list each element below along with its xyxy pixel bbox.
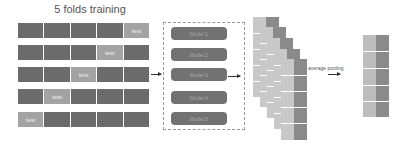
train-cell [124,112,149,127]
fold-row-3: test [18,67,149,82]
final-prediction [363,35,389,117]
arrow-to-final [328,74,340,75]
train-cell [71,89,96,104]
fold-row-4: test [18,89,149,104]
arrow-to-predictions [228,76,240,77]
train-cell [18,23,43,38]
pooling-label: average pooling [308,65,344,71]
train-cell [18,67,43,82]
model-box-2: Model 2 [171,48,227,61]
train-cell [18,45,43,60]
train-cell [44,67,69,82]
arrow-to-models [151,74,161,75]
train-cell [124,67,149,82]
train-cell [97,23,122,38]
train-cell [44,23,69,38]
fold-row-5: test [18,112,149,127]
train-cell [124,45,149,60]
test-cell: test [18,112,43,127]
train-cell [71,23,96,38]
train-cell [97,112,122,127]
model-box-5: Model 5 [171,112,227,125]
test-cell: test [97,45,122,60]
test-cell: test [71,67,96,82]
test-cell: test [124,23,149,38]
train-cell [97,89,122,104]
test-cell: test [44,89,69,104]
train-cell [71,112,96,127]
model-box-3: Model 3 [171,68,227,81]
fold-row-1: test [18,23,149,38]
train-cell [97,67,122,82]
model-box-1: Model 1 [171,27,227,40]
train-cell [44,45,69,60]
train-cell [124,89,149,104]
train-cell [18,89,43,104]
train-cell [71,45,96,60]
model-box-4: Model 4 [171,91,227,104]
prediction-sheet-5 [281,59,307,140]
diagram-title: 5 folds training [40,3,140,15]
fold-row-2: test [18,45,149,60]
train-cell [44,112,69,127]
